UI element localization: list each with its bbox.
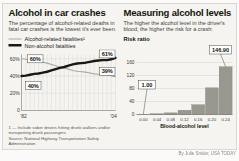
legend-label-non-alcohol: Non-alcohol fatalities (25, 42, 76, 48)
svg-text:1.00: 1.00 (142, 82, 153, 88)
right-panel-title: Measuring alcohol levels (124, 8, 235, 18)
panel-measuring-alcohol: Measuring alcohol levels The higher the … (124, 8, 235, 136)
legend-item-non-alcohol: Non-alcohol fatalities (9, 42, 118, 49)
risk-bar (205, 88, 218, 115)
panel-alcohol-crashes: Alcohol in car crashes The percentage of… (9, 8, 118, 147)
left-panel-subtitle: The percentage of alcohol-related deaths… (9, 20, 118, 33)
svg-text:0.24: 0.24 (221, 117, 230, 122)
risk-ratio-label: Risk ratio (124, 36, 235, 42)
svg-text:60%: 60% (10, 56, 21, 62)
svg-text:0.16: 0.16 (194, 117, 203, 122)
svg-text:0.20: 0.20 (208, 117, 217, 122)
svg-text:0.00: 0.00 (139, 117, 148, 122)
svg-text:40%: 40% (28, 83, 39, 89)
line-chart-legend: Alcohol-related fatalities¹ Non-alcohol … (9, 36, 118, 49)
svg-text:0.04: 0.04 (153, 117, 162, 122)
svg-text:40: 40 (129, 99, 135, 104)
infographic-viewport: Alcohol in car crashes The percentage of… (0, 0, 239, 161)
right-panel-subtitle: The higher the alcohol level in the driv… (124, 20, 235, 33)
thick-black-line-swatch (9, 44, 22, 47)
left-panel-title: Alcohol in car crashes (9, 8, 118, 18)
svg-text:'04: '04 (110, 113, 117, 119)
svg-text:146.90: 146.90 (212, 47, 229, 53)
infographic-stage: Alcohol in car crashes The percentage of… (0, 0, 239, 161)
risk-bar (192, 105, 205, 115)
svg-text:80: 80 (129, 86, 135, 91)
thin-gray-line-swatch (9, 38, 22, 39)
credit-line: By Julie Snider, USA TODAY (178, 151, 236, 156)
infographic-frame: Alcohol in car crashes The percentage of… (2, 3, 237, 150)
svg-text:60%: 60% (30, 56, 41, 62)
legend-label-alcohol-related: Alcohol-related fatalities¹ (25, 36, 85, 42)
svg-text:39%: 39% (102, 68, 113, 74)
risk-ratio-bar-chart: 040801201600.000.040.080.120.160.200.24B… (124, 43, 238, 136)
svg-text:61%: 61% (102, 51, 113, 57)
svg-text:120: 120 (126, 73, 134, 78)
svg-text:160: 160 (126, 60, 134, 65)
x-axis-title: Blood-alcohol level (160, 123, 209, 129)
svg-text:40%: 40% (10, 73, 21, 79)
left-panel-source: Source: National Highway Transportation … (9, 136, 118, 146)
svg-text:0: 0 (132, 112, 135, 117)
left-panel-footnote: 1 — Include sober drivers hitting drunk … (9, 125, 118, 135)
risk-bar (178, 110, 191, 114)
fatalities-line-chart: 020%40%60%'82'0460%40%61%39% (9, 50, 119, 124)
svg-text:20%: 20% (10, 90, 21, 96)
risk-bar (219, 67, 232, 115)
svg-text:'82: '82 (20, 113, 27, 119)
svg-text:0.12: 0.12 (180, 117, 189, 122)
svg-text:0.08: 0.08 (167, 117, 176, 122)
